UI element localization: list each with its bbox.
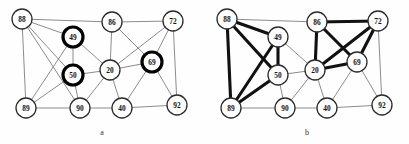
node-label-88: 88 bbox=[18, 15, 26, 24]
node-label-49: 49 bbox=[274, 33, 282, 42]
graph-node-20[interactable]: 20 bbox=[305, 60, 325, 80]
node-label-88: 88 bbox=[223, 15, 231, 24]
graph-node-20[interactable]: 20 bbox=[100, 60, 120, 80]
graph-node-92[interactable]: 92 bbox=[167, 95, 187, 115]
node-label-69: 69 bbox=[148, 58, 156, 67]
graph-node-92[interactable]: 92 bbox=[372, 95, 392, 115]
node-label-20: 20 bbox=[106, 66, 114, 75]
graph-node-50[interactable]: 50 bbox=[268, 65, 288, 85]
panel-caption-b: b bbox=[205, 128, 409, 137]
graph-edge-88-89 bbox=[227, 19, 231, 108]
graph-node-72[interactable]: 72 bbox=[368, 11, 388, 31]
graph-node-50[interactable]: 50 bbox=[63, 65, 83, 85]
node-label-89: 89 bbox=[227, 104, 235, 113]
node-label-49: 49 bbox=[69, 33, 77, 42]
graph-node-40[interactable]: 40 bbox=[112, 98, 132, 118]
node-label-90: 90 bbox=[76, 104, 84, 113]
figure-root: 8849867250206989904092 a 884986725020698… bbox=[0, 0, 409, 144]
graph-node-89[interactable]: 89 bbox=[221, 98, 241, 118]
graph-edge-88-86 bbox=[22, 19, 112, 22]
graph-node-72[interactable]: 72 bbox=[163, 11, 183, 31]
node-layer: 8849867250206989904092 bbox=[12, 9, 187, 118]
node-label-72: 72 bbox=[169, 17, 177, 26]
graph-node-88[interactable]: 88 bbox=[217, 9, 237, 29]
node-label-40: 40 bbox=[323, 104, 331, 113]
graph-edge-88-89 bbox=[22, 19, 26, 108]
graph-svg-b: 8849867250206989904092 bbox=[205, 0, 409, 144]
graph-node-86[interactable]: 86 bbox=[307, 12, 327, 32]
node-label-92: 92 bbox=[173, 101, 181, 110]
node-label-69: 69 bbox=[353, 58, 361, 67]
node-label-90: 90 bbox=[281, 104, 289, 113]
graph-node-90[interactable]: 90 bbox=[70, 98, 90, 118]
panel-caption-a: a bbox=[0, 128, 204, 137]
node-label-89: 89 bbox=[22, 104, 30, 113]
graph-svg-a: 8849867250206989904092 bbox=[0, 0, 204, 144]
graph-edge-72-92 bbox=[378, 21, 382, 105]
graph-node-49[interactable]: 49 bbox=[63, 27, 83, 47]
graph-node-88[interactable]: 88 bbox=[12, 9, 32, 29]
graph-panel-b: 8849867250206989904092 b bbox=[205, 0, 409, 144]
graph-edge-88-86 bbox=[227, 19, 317, 22]
graph-node-69[interactable]: 69 bbox=[347, 52, 367, 72]
graph-panel-a: 8849867250206989904092 a bbox=[0, 0, 204, 144]
graph-node-49[interactable]: 49 bbox=[268, 27, 288, 47]
node-label-50: 50 bbox=[69, 71, 77, 80]
graph-node-40[interactable]: 40 bbox=[317, 98, 337, 118]
node-label-72: 72 bbox=[374, 17, 382, 26]
node-label-92: 92 bbox=[378, 101, 386, 110]
graph-node-89[interactable]: 89 bbox=[16, 98, 36, 118]
node-label-50: 50 bbox=[274, 71, 282, 80]
node-label-86: 86 bbox=[313, 18, 321, 27]
node-label-20: 20 bbox=[311, 66, 319, 75]
graph-edge-72-92 bbox=[173, 21, 177, 105]
graph-node-86[interactable]: 86 bbox=[102, 12, 122, 32]
graph-node-90[interactable]: 90 bbox=[275, 98, 295, 118]
node-label-86: 86 bbox=[108, 18, 116, 27]
node-label-40: 40 bbox=[118, 104, 126, 113]
graph-node-69[interactable]: 69 bbox=[142, 52, 162, 72]
